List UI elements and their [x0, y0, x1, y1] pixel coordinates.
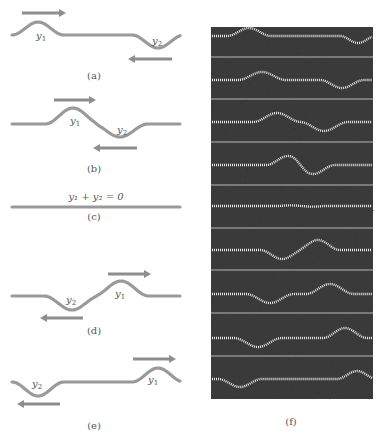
- arrow-left-icon: [40, 314, 83, 322]
- panel-label-a: (a): [74, 70, 114, 81]
- arrow-right-icon: [108, 270, 151, 278]
- arrow-left-icon: [93, 144, 137, 152]
- symbol-y1: y1: [147, 374, 158, 387]
- panel-a: y1y2: [12, 9, 180, 63]
- strobe-frame-5: [212, 205, 372, 206]
- panel-label-e: (e): [74, 420, 114, 431]
- string-pulse-panels: y1y2y1y2y₁ + y₂ = 0y2y1y2y1: [12, 9, 180, 408]
- arrow-left-icon: [17, 400, 60, 408]
- panel-label-b: (b): [74, 163, 114, 174]
- string-d: [12, 281, 180, 310]
- panel-b: y1y2: [12, 96, 180, 152]
- symbol-y1: y1: [35, 30, 46, 43]
- symbol-y1: y1: [114, 288, 125, 301]
- symbol-y2: y2: [65, 294, 76, 307]
- symbol-y2: y2: [116, 124, 127, 137]
- equation-sum-zero: y₁ + y₂ = 0: [67, 191, 124, 202]
- arrow-right-icon: [22, 9, 66, 17]
- arrow-right-icon: [133, 355, 176, 363]
- arrow-left-icon: [128, 55, 172, 63]
- string-b: [12, 108, 180, 137]
- panel-e: y2y1: [12, 355, 180, 408]
- panel-label-f: (f): [271, 416, 311, 427]
- panel-d: y2y1: [12, 270, 180, 322]
- arrow-right-icon: [54, 96, 96, 104]
- symbol-y1: y1: [69, 115, 80, 128]
- symbol-y2: y2: [31, 378, 42, 391]
- wave-superposition-figure: y1y2y1y2y₁ + y₂ = 0y2y1y2y1: [0, 0, 383, 444]
- panel-label-c: (c): [74, 211, 114, 222]
- panel-c: y₁ + y₂ = 0: [12, 191, 180, 207]
- panel-label-d: (d): [74, 325, 114, 336]
- strobe-photo-panel: [211, 27, 374, 399]
- photo-background: [211, 27, 373, 399]
